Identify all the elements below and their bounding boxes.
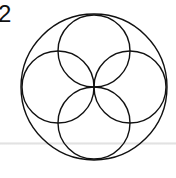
inner-circle-right [94,51,166,123]
inner-circle-left [22,51,94,123]
inner-circle-top [58,15,130,87]
circle-diagram [0,0,176,178]
inner-circle-bottom [58,87,130,159]
